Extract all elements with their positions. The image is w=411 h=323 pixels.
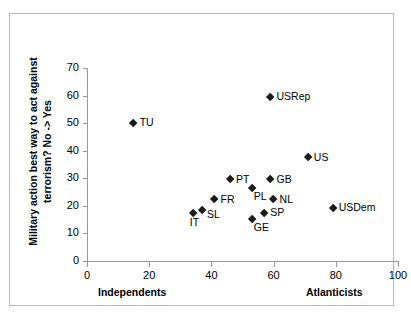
y-tick-label-30: 30 [57,172,79,183]
diamond-marker-icon [210,195,219,204]
diamond-marker-icon [303,153,312,162]
x-axis-left-caption: Independents [98,286,166,298]
y-axis-title: Military action best way to act against … [26,44,58,259]
y-axis-tick-labels: 010203040506070 [55,14,79,305]
x-tick-20 [149,262,150,267]
x-tick-label-100: 100 [378,269,411,281]
y-tick-label-0: 0 [57,255,79,266]
data-point-label: GB [276,174,291,185]
x-axis-line [87,261,399,262]
data-point-label: SL [207,209,220,220]
data-point-label: PT [236,174,249,185]
data-point-label: USDem [339,202,376,213]
x-axis-right-caption: Atlanticists [306,286,363,298]
diamond-marker-icon [328,203,337,212]
x-tick-label-60: 60 [254,269,294,281]
diamond-marker-icon [269,195,278,204]
x-tick-100 [398,262,399,267]
y-tick-label-50: 50 [57,117,79,128]
plot-area: TUUSRepUSUSDemPTGBPLNLFRSLITSPGE [87,68,398,261]
diamond-marker-icon [226,175,235,184]
diamond-marker-icon [266,175,275,184]
y-tick-label-70: 70 [57,62,79,73]
x-tick-label-40: 40 [191,269,231,281]
y-tick-label-10: 10 [57,227,79,238]
x-tick-label-80: 80 [316,269,356,281]
x-tick-60 [274,262,275,267]
data-point-label: FR [221,194,235,205]
data-point-label: PL [254,191,267,202]
data-point-label: SP [270,207,284,218]
y-tick-label-20: 20 [57,200,79,211]
x-tick-0 [87,262,88,267]
x-tick-label-20: 20 [129,269,169,281]
y-tick-label-40: 40 [57,145,79,156]
x-tick-80 [336,262,337,267]
data-point-label: USRep [276,91,310,102]
data-point-label: TU [140,117,154,128]
diamond-marker-icon [266,92,275,101]
chart-frame: Military action best way to act against … [9,13,394,306]
y-tick-label-60: 60 [57,90,79,101]
diamond-marker-icon [129,119,138,128]
diamond-marker-icon [260,209,269,218]
x-tick-40 [211,262,212,267]
data-point-label: NL [280,194,293,205]
data-point-label: GE [254,222,269,233]
diamond-marker-icon [198,205,207,214]
x-tick-label-0: 0 [67,269,107,281]
data-point-label: US [314,152,329,163]
data-point-label: IT [190,217,199,228]
